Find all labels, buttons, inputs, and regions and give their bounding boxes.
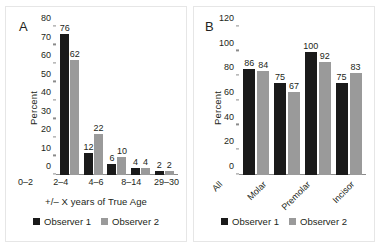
bar-group: 22 xyxy=(152,27,176,175)
legend-entry: Observer 1 xyxy=(33,216,91,227)
y-tick-mark xyxy=(236,25,239,26)
y-tick-mark xyxy=(53,173,56,174)
bar: 4 xyxy=(131,168,140,175)
y-tick-label: 40 xyxy=(224,112,234,121)
bar: 2 xyxy=(165,171,174,175)
panel-b-bar-groups: 86847567100927583 xyxy=(241,27,364,175)
x-tick-label: Molar xyxy=(240,178,284,212)
y-tick-label: 40 xyxy=(41,88,51,97)
bar-value-label: 92 xyxy=(320,52,330,61)
bar-value-label: 83 xyxy=(351,63,361,72)
y-tick-label: 30 xyxy=(41,106,51,115)
y-tick-label: 0 xyxy=(229,162,234,171)
legend-label: Observer 1 xyxy=(232,216,279,227)
bar-value-label: 75 xyxy=(275,73,285,82)
y-tick-label: 50 xyxy=(41,69,51,78)
y-tick-label: 80 xyxy=(41,14,51,23)
y-tick-label: 70 xyxy=(41,32,51,41)
panel-a: A Percent 766212226104422 01020304050607… xyxy=(5,6,187,242)
y-tick-label: 100 xyxy=(219,38,234,47)
y-tick-label: 20 xyxy=(224,137,234,146)
legend-swatch xyxy=(289,218,296,225)
y-tick-mark xyxy=(53,118,56,119)
y-tick-mark xyxy=(236,75,239,76)
bar-group: 610 xyxy=(105,27,129,175)
bar-group: 10092 xyxy=(303,27,334,175)
bar: 86 xyxy=(243,69,255,175)
panel-b-x-tick-labels: AllMolarPremolarIncisor xyxy=(196,178,372,212)
bar: 2 xyxy=(155,171,164,175)
legend-entry: Observer 2 xyxy=(101,216,159,227)
x-tick-label: Premolar xyxy=(284,178,328,212)
figure-container: A Percent 766212226104422 01020304050607… xyxy=(0,0,380,248)
bar-group: 7662 xyxy=(58,27,82,175)
bar-value-label: 4 xyxy=(143,158,148,167)
x-tick-label: 8–14 xyxy=(114,178,149,187)
y-tick-mark xyxy=(53,81,56,82)
y-tick-mark xyxy=(53,136,56,137)
panel-a-y-axis-label: Percent xyxy=(28,91,39,125)
bar-value-label: 76 xyxy=(60,24,70,33)
bar: 67 xyxy=(288,92,300,175)
bar-pair: 8684 xyxy=(243,27,269,175)
panel-b-plot-area: 86847567100927583 020406080100120 xyxy=(239,27,366,175)
bar: 10 xyxy=(117,157,126,176)
x-tick-label: 2–4 xyxy=(43,178,78,187)
bar-group: 7583 xyxy=(333,27,364,175)
legend-label: Observer 2 xyxy=(112,216,159,227)
x-tick-label: 29–30 xyxy=(149,178,184,187)
bar: 100 xyxy=(305,52,317,175)
bar-group: 1222 xyxy=(82,27,106,175)
y-tick-label: 10 xyxy=(41,143,51,152)
bar: 75 xyxy=(336,83,348,176)
bar-value-label: 4 xyxy=(133,158,138,167)
legend-entry: Observer 2 xyxy=(289,216,347,227)
y-tick-mark xyxy=(53,25,56,26)
legend-label: Observer 1 xyxy=(44,216,91,227)
panel-b-legend: Observer 1Observer 2 xyxy=(194,216,374,227)
bar-value-label: 12 xyxy=(83,143,93,152)
legend-swatch xyxy=(221,218,228,225)
y-tick-mark xyxy=(53,99,56,100)
bar-pair: 1222 xyxy=(84,27,103,175)
y-tick-label: 80 xyxy=(224,63,234,72)
bar-group: 8684 xyxy=(241,27,272,175)
bar-value-label: 10 xyxy=(117,147,127,156)
bar-value-label: 2 xyxy=(157,161,162,170)
bar-value-label: 22 xyxy=(93,124,103,133)
panel-a-letter: A xyxy=(19,19,28,34)
legend-label: Observer 2 xyxy=(300,216,347,227)
bar: 12 xyxy=(84,153,93,175)
panel-a-legend: Observer 1Observer 2 xyxy=(6,216,186,227)
x-tick-label: 0–2 xyxy=(8,178,43,187)
bar: 22 xyxy=(94,134,103,175)
legend-swatch xyxy=(101,218,108,225)
bar-pair: 44 xyxy=(131,27,150,175)
bar-value-label: 67 xyxy=(289,82,299,91)
y-tick-mark xyxy=(236,173,239,174)
x-tick-label: Incisor xyxy=(328,178,372,212)
bar-pair: 22 xyxy=(155,27,174,175)
y-tick-label: 20 xyxy=(41,125,51,134)
y-tick-label: 60 xyxy=(41,51,51,60)
panel-a-x-axis-title: +/– X years of True Age xyxy=(6,196,186,207)
bar-value-label: 75 xyxy=(337,73,347,82)
bar-value-label: 100 xyxy=(303,42,318,51)
bar-pair: 7662 xyxy=(60,27,79,175)
y-tick-mark xyxy=(53,155,56,156)
bar-pair: 7567 xyxy=(274,27,300,175)
bar: 76 xyxy=(60,34,69,175)
y-tick-mark xyxy=(236,149,239,150)
bar: 75 xyxy=(274,83,286,176)
panel-b: B Percent 86847567100927583 020406080100… xyxy=(193,6,375,242)
bar-group: 7567 xyxy=(272,27,303,175)
bar-pair: 7583 xyxy=(336,27,362,175)
legend-entry: Observer 1 xyxy=(221,216,279,227)
panel-a-x-tick-labels: 0–22–44–68–1429–30 xyxy=(8,178,184,187)
bar-value-label: 2 xyxy=(167,161,172,170)
bar: 83 xyxy=(350,73,362,175)
x-tick-label: 4–6 xyxy=(78,178,113,187)
panel-b-y-axis-label: Percent xyxy=(212,91,223,125)
y-tick-mark xyxy=(236,50,239,51)
bar-value-label: 84 xyxy=(258,61,268,70)
